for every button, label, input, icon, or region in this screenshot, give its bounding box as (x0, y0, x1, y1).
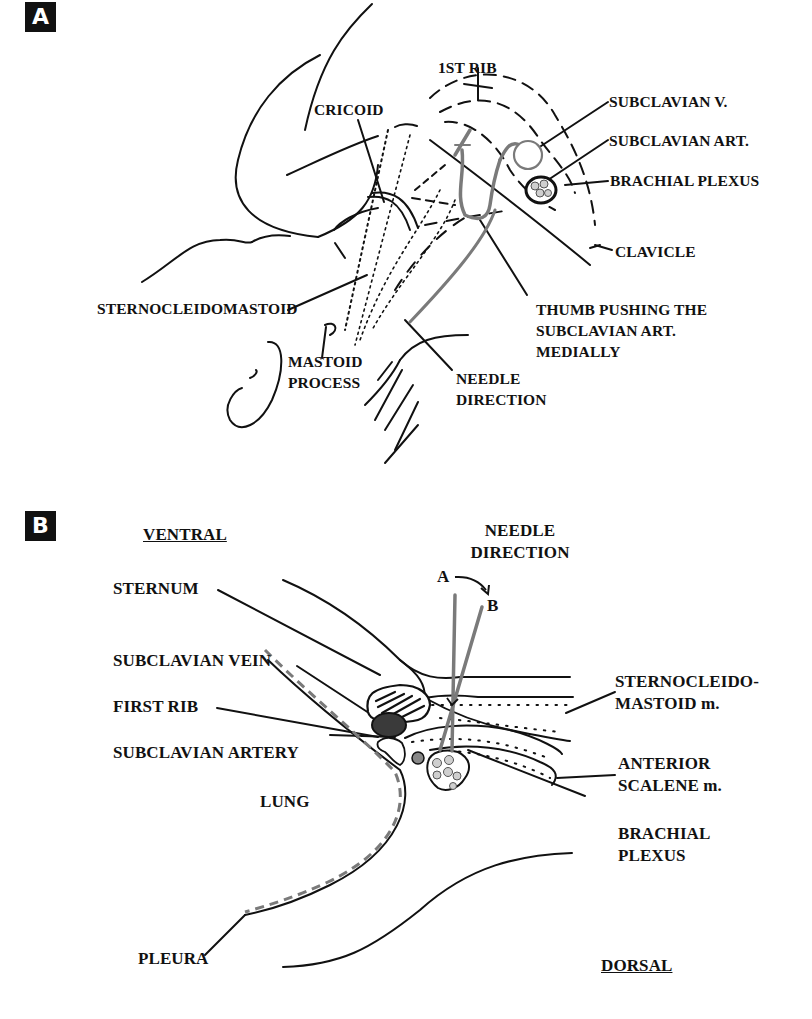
needle-a (452, 595, 455, 751)
pleura-leader (205, 915, 245, 955)
label-thumb-line1: THUMB PUSHING THE (536, 300, 707, 319)
label-needle-line2: DIRECTION (456, 390, 546, 409)
label-sternocleidomastoid: STERNOCLEIDOMASTOID (97, 299, 298, 318)
label-first-rib: 1ST RIB (438, 58, 497, 77)
label-needle-a: A (437, 566, 449, 587)
label-thumb-line3: MEDIALLY (536, 342, 621, 361)
label-pleura: PLEURA (138, 948, 209, 969)
label-scalene-line1: ANTERIOR (618, 753, 710, 774)
label-brachial-line1: BRACHIAL (618, 823, 710, 844)
label-needle-direction-line2: DIRECTION (460, 542, 580, 563)
cricoid-leader (358, 120, 384, 202)
needle-direction-leader (405, 320, 452, 370)
subclavian-vein-leader (297, 666, 372, 715)
label-ventral: VENTRAL (143, 524, 227, 545)
label-needle-direction-line1: NEEDLE (460, 520, 580, 541)
label-scm-line2: MASTOID m. (615, 693, 720, 714)
subclavian-vein-shape (372, 713, 406, 737)
label-thumb-line2: SUBCLAVIAN ART. (536, 321, 676, 340)
label-scalene-line2: SCALENE m. (618, 775, 722, 796)
label-mastoid-line2: PROCESS (288, 373, 360, 392)
thumb-leader (480, 220, 527, 295)
label-subclavian-artery: SUBCLAVIAN ARTERY (113, 742, 299, 763)
label-clavicle: CLAVICLE (615, 242, 696, 261)
label-scm-line1: STERNOCLEIDO- (615, 671, 759, 692)
subclavian-artery-shape (412, 752, 424, 764)
first-rib-shape (377, 738, 404, 765)
sternocleidomastoid-leader (288, 275, 367, 310)
subclavian-vein-circle (514, 141, 542, 169)
neck-surface-anatomy-sketch (0, 0, 812, 480)
clavicle-leader (595, 245, 612, 250)
label-needle-b: B (487, 595, 498, 616)
needle-paths (440, 595, 482, 751)
label-needle-line1: NEEDLE (456, 369, 520, 388)
label-first-rib: FIRST RIB (113, 696, 198, 717)
label-mastoid-line1: MASTOID (288, 352, 362, 371)
scm-leader (566, 692, 615, 713)
label-sternum: STERNUM (113, 578, 199, 599)
label-subclavian-v: SUBCLAVIAN V. (609, 92, 727, 111)
label-lung: LUNG (260, 791, 310, 812)
panel-b: B (0, 500, 812, 1019)
label-brachial-plexus: BRACHIAL PLEXUS (610, 171, 759, 190)
label-dorsal: DORSAL (601, 955, 672, 976)
needle-line (410, 210, 495, 322)
label-brachial-line2: PLEXUS (618, 845, 686, 866)
label-subclavian-vein: SUBCLAVIAN VEIN (113, 650, 271, 671)
label-subclavian-art: SUBCLAVIAN ART. (609, 131, 749, 150)
subclavian-art-leader (548, 140, 608, 180)
subclavian-v-leader (535, 102, 608, 150)
scalene-leader (557, 775, 615, 778)
label-cricoid: CRICOID (314, 100, 384, 119)
panel-a: A (0, 0, 812, 480)
